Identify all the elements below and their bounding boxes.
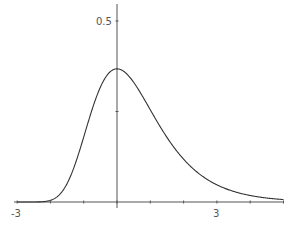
x-tick-label-min: -3 xyxy=(11,208,21,219)
y-tick-label-top: 0.5 xyxy=(96,16,112,27)
axes xyxy=(14,4,284,208)
density-chart: -3 3 0.5 xyxy=(0,0,294,231)
x-tick-label-3: 3 xyxy=(213,208,219,219)
density-curve xyxy=(17,69,283,202)
